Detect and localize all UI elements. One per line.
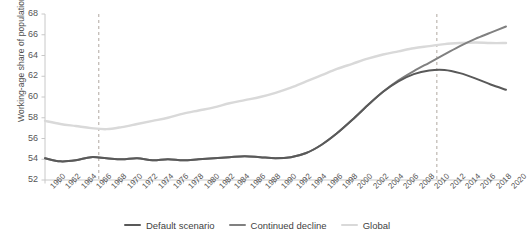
x-tick-label: 1968 (110, 185, 116, 191)
x-tick-label: 1984 (233, 185, 239, 191)
legend-swatch-icon (124, 224, 141, 227)
x-tick-label: 1982 (218, 185, 224, 191)
x-tick-label: 1986 (249, 185, 255, 191)
x-tick-label: 1964 (80, 185, 86, 191)
x-tick-label: 2018 (495, 185, 501, 191)
x-tick-label: 2006 (402, 185, 408, 191)
x-tick-label: 1988 (264, 185, 270, 191)
x-tick-label: 1980 (203, 185, 209, 191)
x-tick-label: 2008 (418, 185, 424, 191)
x-tick-label: 1992 (295, 185, 301, 191)
x-tick-label: 2020 (510, 185, 516, 191)
legend-item[interactable]: Continued decline (229, 220, 327, 231)
chart-legend: Default scenarioContinued declineGlobal (0, 214, 514, 236)
x-tick-label: 1990 (280, 185, 286, 191)
x-tick-label: 2004 (387, 185, 393, 191)
legend-item[interactable]: Default scenario (124, 220, 215, 231)
legend-label: Default scenario (146, 220, 215, 231)
x-tick-label: 2002 (372, 185, 378, 191)
x-tick-label: 1960 (49, 185, 55, 191)
x-tick-label: 1962 (64, 185, 70, 191)
x-tick-label: 1978 (187, 185, 193, 191)
legend-label: Continued decline (251, 220, 327, 231)
x-tick-label: 1998 (341, 185, 347, 191)
x-tick-label: 1974 (157, 185, 163, 191)
legend-label: Global (363, 220, 390, 231)
x-tick-label: 1994 (310, 185, 316, 191)
x-tick-label: 1976 (172, 185, 178, 191)
x-tick-label: 1972 (141, 185, 147, 191)
x-tick-label: 2014 (464, 185, 470, 191)
x-tick-label: 1996 (326, 185, 332, 191)
x-tick-label: 2012 (449, 185, 455, 191)
legend-item[interactable]: Global (341, 220, 390, 231)
x-tick-label: 1970 (126, 185, 132, 191)
x-tick-label: 2000 (356, 185, 362, 191)
legend-swatch-icon (341, 224, 358, 227)
x-tick-label: 2016 (479, 185, 485, 191)
legend-swatch-icon (229, 224, 246, 227)
x-tick-label: 2010 (433, 185, 439, 191)
x-tick-label: 1966 (95, 185, 101, 191)
